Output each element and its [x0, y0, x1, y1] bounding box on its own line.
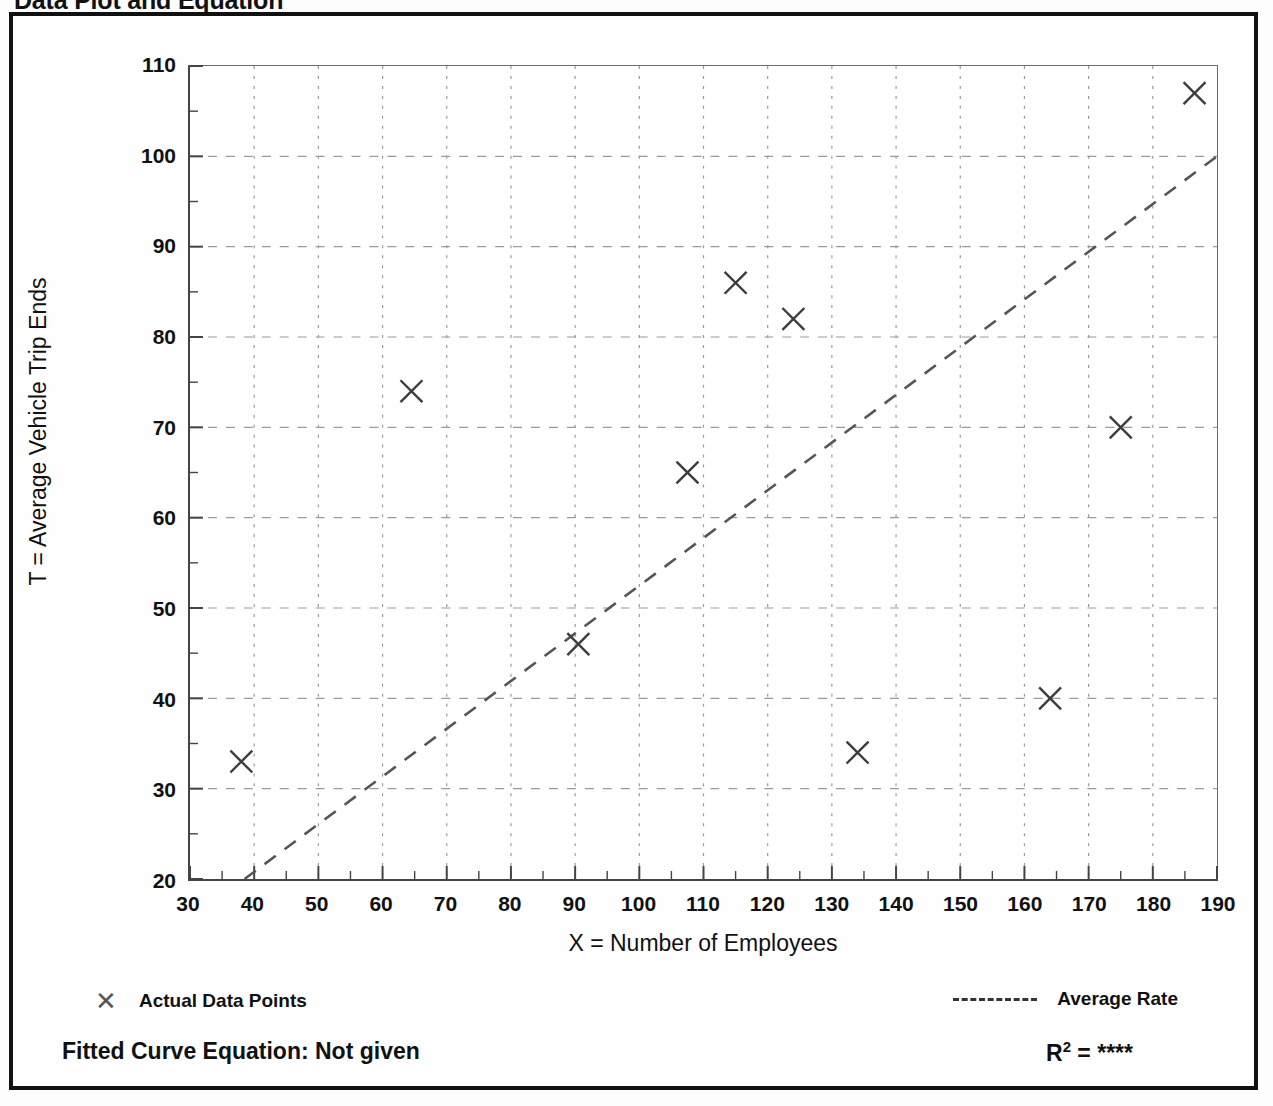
x-tick-label: 120	[750, 892, 785, 916]
chart-legend: ✕ Actual Data Points Average Rate	[0, 988, 1273, 1028]
chart-footer: Fitted Curve Equation: Not given R2 = **…	[0, 1038, 1273, 1078]
trend-line-group	[245, 156, 1217, 879]
data-point-marker	[230, 751, 252, 773]
x-tick-label: 30	[176, 892, 199, 916]
plot-area	[188, 65, 1218, 881]
plot-wrapper: 2030405060708090100110 30405060708090100…	[0, 0, 1273, 1106]
x-tick-label: 140	[879, 892, 914, 916]
x-tick-label: 40	[241, 892, 264, 916]
y-tick-label: 80	[153, 325, 176, 349]
data-point-marker	[1184, 82, 1206, 104]
legend-item-points: ✕ Actual Data Points	[95, 988, 307, 1014]
y-tick-label: 30	[153, 778, 176, 802]
legend-label-points: Actual Data Points	[139, 990, 307, 1012]
dashed-line-icon	[953, 998, 1037, 1001]
x-tick-label: 50	[305, 892, 328, 916]
r-squared-exponent: 2	[1063, 1038, 1071, 1055]
data-point-marker	[567, 633, 589, 655]
y-tick-label: 90	[153, 234, 176, 258]
data-point-marker	[400, 380, 422, 402]
x-tick-label: 60	[369, 892, 392, 916]
data-point-marker	[676, 462, 698, 484]
x-tick-label: 90	[563, 892, 586, 916]
data-layer	[190, 66, 1217, 879]
r-squared-value: R2 = ****	[1046, 1038, 1133, 1067]
y-tick-label: 110	[142, 53, 176, 77]
x-tick-label: 160	[1007, 892, 1042, 916]
x-tick-label: 100	[621, 892, 656, 916]
data-point-markers	[230, 82, 1205, 772]
fitted-curve-equation: Fitted Curve Equation: Not given	[62, 1038, 420, 1065]
data-point-marker	[782, 308, 804, 330]
x-tick-label: 150	[943, 892, 978, 916]
cross-marker-icon: ✕	[95, 988, 117, 1014]
x-axis-title: X = Number of Employees	[188, 930, 1218, 957]
data-point-marker	[1110, 416, 1132, 438]
x-axis-tick-labels: 3040506070809010011012013014015016017018…	[188, 892, 1218, 922]
y-tick-label: 100	[141, 144, 176, 168]
data-point-marker	[847, 742, 869, 764]
legend-item-average-rate: Average Rate	[953, 988, 1178, 1010]
r-squared-prefix: R	[1046, 1040, 1063, 1066]
data-point-marker	[1039, 687, 1061, 709]
chart-page: Data Plot and Equation 20304050607080901…	[0, 0, 1273, 1106]
y-tick-label: 50	[153, 597, 176, 621]
x-tick-label: 170	[1072, 892, 1107, 916]
x-tick-label: 190	[1200, 892, 1235, 916]
y-tick-label: 70	[153, 416, 176, 440]
x-tick-label: 110	[686, 892, 720, 916]
y-axis-tick-labels: 2030405060708090100110	[108, 65, 176, 881]
legend-label-average-rate: Average Rate	[1057, 988, 1178, 1010]
y-tick-label: 40	[153, 688, 176, 712]
x-tick-label: 80	[498, 892, 521, 916]
y-tick-label: 60	[153, 506, 176, 530]
y-axis-title: T = Average Vehicle Trip Ends	[25, 152, 52, 712]
r-squared-stars: ****	[1097, 1040, 1133, 1066]
r-squared-equals: =	[1071, 1040, 1097, 1066]
x-tick-label: 70	[434, 892, 457, 916]
x-tick-label: 180	[1136, 892, 1171, 916]
data-point-marker	[725, 272, 747, 294]
x-tick-label: 130	[814, 892, 849, 916]
y-tick-label: 20	[153, 869, 176, 893]
